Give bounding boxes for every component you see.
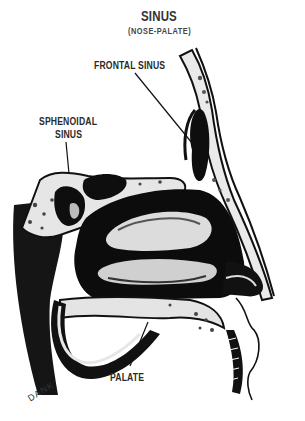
palate-label: PALATE xyxy=(110,371,144,383)
sphenoidal-sinus-label-line1: SPHENOIDAL xyxy=(39,115,97,127)
frontal-sinus-label: FRONTAL SINUS xyxy=(94,59,165,71)
sphenoidal-sinus-label-line2: SINUS xyxy=(55,128,82,140)
frontal-sinus-leader-line xyxy=(135,73,192,143)
